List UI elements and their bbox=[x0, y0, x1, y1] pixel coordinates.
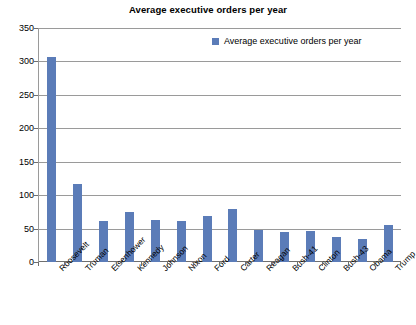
x-axis-tick-label: Obama bbox=[367, 266, 374, 273]
gridline bbox=[39, 128, 401, 129]
x-axis-tick-label: Bush-43 bbox=[341, 266, 348, 273]
y-axis-tick bbox=[34, 28, 38, 29]
y-axis-tick-label: 350 bbox=[0, 23, 34, 33]
gridline bbox=[39, 61, 401, 62]
plot-area bbox=[38, 28, 400, 262]
x-axis-tick-label: Nixon bbox=[186, 266, 193, 273]
x-axis-tick bbox=[193, 262, 194, 266]
gridline bbox=[39, 162, 401, 163]
x-axis-tick-label: Roosevelt bbox=[57, 266, 64, 273]
x-axis-tick bbox=[374, 262, 375, 266]
x-axis-tick-label: Johnson bbox=[160, 266, 167, 273]
x-axis-tick-label: Bush-41 bbox=[290, 266, 297, 273]
y-axis-tick bbox=[34, 195, 38, 196]
x-axis-tick bbox=[64, 262, 65, 266]
gridline bbox=[39, 195, 401, 196]
x-axis-tick bbox=[322, 262, 323, 266]
y-axis-tick bbox=[34, 162, 38, 163]
x-axis-tick bbox=[116, 262, 117, 266]
x-axis-tick bbox=[90, 262, 91, 266]
x-axis-tick-label: Truman bbox=[83, 266, 90, 273]
y-axis-tick-label: 50 bbox=[0, 224, 34, 234]
x-axis-tick bbox=[245, 262, 246, 266]
y-axis-tick-label: 0 bbox=[0, 257, 34, 267]
legend-label: Average executive orders per year bbox=[224, 36, 361, 46]
x-axis-tick-label: Eisenhower bbox=[109, 266, 116, 273]
gridline bbox=[39, 95, 401, 96]
x-axis-tick bbox=[297, 262, 298, 266]
x-axis-tick-label: Ford bbox=[212, 266, 219, 273]
gridline bbox=[39, 28, 401, 29]
y-axis-tick-label: 100 bbox=[0, 190, 34, 200]
bar[interactable] bbox=[47, 57, 56, 262]
chart-legend: Average executive orders per year bbox=[212, 36, 361, 46]
x-axis-tick bbox=[38, 262, 39, 266]
y-axis-tick bbox=[34, 61, 38, 62]
y-axis-tick-label: 200 bbox=[0, 123, 34, 133]
gridline bbox=[39, 229, 401, 230]
x-axis-tick bbox=[400, 262, 401, 266]
x-axis-tick-label: Clinton bbox=[316, 266, 323, 273]
x-axis-tick bbox=[141, 262, 142, 266]
y-axis-labels: 050100150200250300350 bbox=[0, 28, 34, 262]
y-axis-tick bbox=[34, 229, 38, 230]
y-axis-tick bbox=[34, 128, 38, 129]
x-axis-tick bbox=[219, 262, 220, 266]
chart-title: Average executive orders per year bbox=[0, 4, 416, 15]
x-axis-tick-label: Trump bbox=[393, 266, 400, 273]
y-axis-tick bbox=[34, 95, 38, 96]
legend-swatch-icon bbox=[212, 38, 219, 45]
x-axis-tick-label: Reagan bbox=[264, 266, 271, 273]
y-axis-tick-label: 250 bbox=[0, 90, 34, 100]
bar[interactable] bbox=[228, 209, 237, 262]
y-axis-tick-label: 150 bbox=[0, 157, 34, 167]
x-axis-tick bbox=[271, 262, 272, 266]
bar-chart: Average executive orders per year 050100… bbox=[0, 0, 416, 325]
x-axis-tick-label: Kennedy bbox=[135, 266, 142, 273]
x-axis-tick bbox=[348, 262, 349, 266]
x-axis-tick bbox=[167, 262, 168, 266]
x-axis-tick-label: Carter bbox=[238, 266, 245, 273]
x-axis-labels: RooseveltTrumanEisenhowerKennedyJohnsonN… bbox=[38, 266, 400, 324]
y-axis-tick-label: 300 bbox=[0, 56, 34, 66]
